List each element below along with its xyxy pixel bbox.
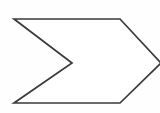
chevron-arrow-svg [0,0,160,113]
chevron-arrow-icon[interactable] [14,19,160,103]
diagram-canvas [0,0,160,113]
